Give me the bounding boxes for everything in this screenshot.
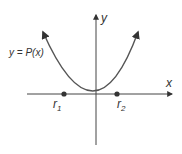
root-label-r1: r1: [53, 97, 61, 113]
y-axis-label: y: [100, 11, 108, 25]
function-label: y = P(x): [8, 47, 44, 58]
root-point-r2: [114, 91, 119, 96]
parabola-curve: [43, 32, 138, 91]
x-axis-label: x: [165, 76, 173, 90]
parabola-diagram: y = P(x) x y r1 r2: [0, 0, 182, 154]
root-point-r1: [61, 91, 66, 96]
root-label-r2: r2: [117, 97, 126, 113]
